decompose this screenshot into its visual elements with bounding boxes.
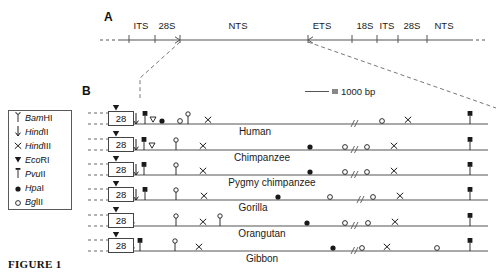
scale-equals-icon bbox=[332, 89, 338, 94]
row-human-marker-8-bgiii-dot-open bbox=[380, 119, 385, 124]
row-gibbon-marker-3-bamhi-lollipop-open bbox=[173, 239, 177, 251]
row-pygmy-chimpanzee-28s-box: 28 bbox=[108, 162, 134, 177]
row-chimpanzee-marker-5-hindiii-cross bbox=[200, 143, 206, 149]
row-chimpanzee-marker-2-pvuii-lollipop-filled-square bbox=[142, 137, 147, 150]
row-human-marker-5-bgiii-dot-open bbox=[178, 119, 183, 124]
row-chimpanzee-marker-9-hindiii-cross bbox=[391, 143, 397, 149]
legend-marker-0-bgiii-dot-open bbox=[16, 200, 21, 205]
panel-a-segment-28s-6: 28S bbox=[404, 20, 421, 31]
ecori-triangle-filled-icon bbox=[12, 154, 25, 167]
legend-item-bamhi-lollipop-open: BamHI bbox=[9, 111, 71, 125]
legend-label-suffix-3: RI bbox=[41, 155, 50, 165]
row-gibbon-marker-8-bgiii-dot-open bbox=[435, 246, 440, 251]
row-chimpanzee-marker-6-hpai-dot-filled bbox=[307, 144, 312, 149]
legend-label-suffix-2: III bbox=[44, 141, 52, 151]
legend-label-suffix-6: lII bbox=[36, 197, 43, 207]
hindiii-cross-icon bbox=[12, 140, 25, 153]
scale-bar: 1000 bp bbox=[305, 86, 375, 97]
row-gibbon-marker-7-hindiii-cross bbox=[384, 244, 390, 250]
row-pygmy-chimpanzee-marker-0-ecori-triangle-filled bbox=[113, 156, 119, 161]
row-gibbon-species-label: Gibbon bbox=[246, 253, 278, 264]
row-pygmy-chimpanzee-marker-7-bgiii-dot-open bbox=[365, 170, 370, 175]
panel-a-segment-28s-1: 28S bbox=[159, 20, 176, 31]
figure-root: A B ITS28SNTSETS18SITS28SNTS HumanChimpa… bbox=[0, 0, 499, 277]
row-chimpanzee-marker-0-ecori-triangle-filled bbox=[113, 131, 119, 136]
legend-item-ecori-triangle-filled: EcoRI bbox=[9, 153, 71, 167]
legend-label-bamhi-lollipop-open: BamHI bbox=[25, 113, 53, 123]
expansion-connector-right bbox=[308, 42, 496, 108]
bamhi-lollipop-open-icon bbox=[12, 112, 25, 125]
row-human-marker-9-hindiii-cross bbox=[405, 117, 411, 123]
row-orangutan-species-label: Orangutan bbox=[238, 228, 285, 239]
row-chimpanzee-marker-4-bamhi-lollipop-open bbox=[174, 138, 178, 150]
legend-label-suffix-5: I bbox=[42, 183, 45, 193]
legend-label-ecori-triangle-filled: EcoRI bbox=[25, 155, 50, 165]
ecori-triangle-filled-icon bbox=[12, 154, 25, 167]
legend-marker-0-ecori-triangle-filled bbox=[15, 157, 21, 162]
bgiii-dot-open-icon bbox=[12, 196, 25, 209]
row-pygmy-chimpanzee-marker-6-bgiii-dot-open bbox=[343, 170, 348, 175]
legend-label-hpai-dot-filled: HpaI bbox=[25, 183, 44, 193]
legend-label-bgiii-dot-open: BglII bbox=[25, 197, 43, 207]
row-gibbon-28s-box: 28 bbox=[108, 238, 134, 253]
row-human bbox=[88, 105, 488, 127]
row-gorilla-marker-4-hindiii-cross bbox=[201, 193, 207, 199]
legend-label-genus-3: Eco bbox=[25, 155, 41, 165]
row-gorilla-marker-6-bgiii-dot-open bbox=[328, 195, 333, 200]
panel-a-segment-its-5: ITS bbox=[380, 20, 395, 31]
enzyme-legend: BamHIHindIIHindIIIEcoRIPvuIIHpaIBglII bbox=[8, 110, 72, 210]
panel-a-segment-its-0: ITS bbox=[134, 20, 149, 31]
row-human-marker-2-pvuii-lollipop-filled-square bbox=[143, 111, 148, 124]
hindii-arrow-down-icon bbox=[12, 126, 25, 139]
row-human-28s-box: 28 bbox=[108, 111, 134, 126]
panel-a-segment-nts-7: NTS bbox=[435, 20, 454, 31]
row-gibbon-marker-5-hpai-dot-filled bbox=[330, 245, 335, 250]
row-gibbon-marker-2-pvuii-lollipop-filled-square bbox=[138, 238, 143, 251]
row-orangutan-marker-4-bamhi-lollipop-open bbox=[218, 214, 222, 226]
row-human-marker-4-hpai-dot-filled bbox=[159, 118, 164, 123]
row-orangutan-28s-box: 28 bbox=[108, 213, 134, 228]
legend-label-genus-4: Pvu bbox=[25, 169, 41, 179]
panel-a-segment-18s-4: 18S bbox=[357, 20, 374, 31]
row-orangutan-marker-0-ecori-triangle-filled bbox=[113, 207, 119, 212]
row-pygmy-chimpanzee-marker-9-pvuii-lollipop-filled-square bbox=[468, 162, 473, 175]
row-gorilla-marker-7-bgiii-dot-open bbox=[371, 195, 376, 200]
legend-label-hindii-arrow-down: HindII bbox=[25, 127, 49, 137]
legend-label-genus-0: Bam bbox=[25, 113, 44, 123]
row-orangutan-marker-5-hpai-dot-filled bbox=[304, 220, 309, 225]
legend-item-bgiii-dot-open: BglII bbox=[9, 195, 71, 209]
row-gibbon bbox=[88, 232, 488, 254]
row-human-marker-0-ecori-triangle-filled bbox=[113, 105, 119, 110]
row-chimpanzee-marker-7-bgiii-dot-open bbox=[343, 145, 348, 150]
legend-marker-0-bamhi-lollipop-open bbox=[16, 112, 20, 122]
legend-label-genus-1: Hind bbox=[25, 127, 44, 137]
row-gorilla-marker-9-pvuii-lollipop-filled-square bbox=[468, 187, 473, 200]
row-pygmy-chimpanzee-marker-8-hindiii-cross bbox=[391, 168, 397, 174]
legend-marker-0-pvuii-lollipop-filled-square bbox=[16, 168, 21, 178]
row-pygmy-chimpanzee-marker-5-hpai-dot-filled bbox=[307, 169, 312, 174]
row-human-marker-7-hindiii-cross bbox=[205, 117, 211, 123]
legend-marker-0-hindiii-cross bbox=[15, 142, 21, 148]
scale-bar-label: 1000 bp bbox=[341, 86, 375, 97]
row-chimpanzee-marker-10-pvuii-lollipop-filled-square bbox=[468, 137, 473, 150]
row-human-marker-10-pvuii-lollipop-filled-square bbox=[468, 111, 473, 124]
row-gorilla-marker-0-ecori-triangle-filled bbox=[113, 181, 119, 186]
row-orangutan bbox=[88, 207, 488, 229]
row-pygmy-chimpanzee-marker-2-pvuii-lollipop-filled-square bbox=[142, 162, 147, 175]
bgiii-dot-open-icon bbox=[12, 196, 25, 209]
pvuii-lollipop-filled-square-icon bbox=[12, 168, 25, 181]
row-gibbon-marker-0-ecori-triangle-filled bbox=[113, 232, 119, 237]
row-pygmy-chimpanzee-species-label: Pygmy chimpanzee bbox=[228, 177, 315, 188]
legend-label-suffix-0: HI bbox=[44, 113, 53, 123]
legend-label-pvuii-lollipop-filled-square: PvuII bbox=[25, 169, 46, 179]
expansion-connector-left bbox=[140, 42, 180, 98]
legend-label-genus-2: Hind bbox=[25, 141, 44, 151]
hpai-dot-filled-icon bbox=[12, 182, 25, 195]
legend-item-hindiii-cross: HindIII bbox=[9, 139, 71, 153]
legend-label-genus-6: Bg bbox=[25, 197, 36, 207]
row-chimpanzee-species-label: Chimpanzee bbox=[234, 152, 290, 163]
row-pygmy-chimpanzee-marker-3-bamhi-lollipop-open bbox=[174, 163, 178, 175]
bamhi-lollipop-open-icon bbox=[12, 112, 25, 125]
legend-label-genus-5: Hpa bbox=[25, 183, 42, 193]
hindii-arrow-down-icon bbox=[12, 126, 25, 139]
